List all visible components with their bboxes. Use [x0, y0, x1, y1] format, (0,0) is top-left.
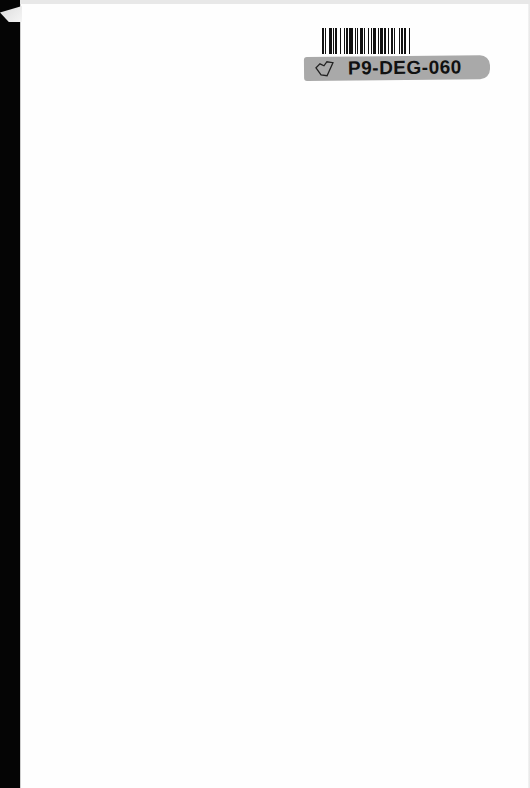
blank-page	[20, 4, 530, 788]
library-barcode-label: P9-DEG-060	[304, 28, 464, 80]
label-id-text: P9-DEG-060	[348, 56, 462, 79]
map-outline-icon	[314, 60, 336, 78]
label-strip: P9-DEG-060	[304, 55, 490, 81]
barcode-icon	[322, 28, 470, 54]
